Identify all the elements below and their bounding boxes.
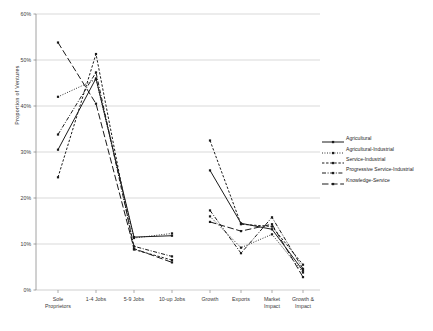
series-line [210, 216, 303, 272]
data-point-marker [95, 53, 97, 55]
data-point-marker [95, 103, 97, 105]
data-point-marker [240, 230, 242, 232]
y-tick-label: 60% [9, 11, 31, 17]
chart-legend: AgriculturalAgricultural-IndustrialServi… [322, 133, 430, 185]
legend-item-agricultural-industrial[interactable]: Agricultural-Industrial [322, 143, 430, 153]
legend-item-label: Service-Industrial [346, 156, 385, 162]
data-point-marker [57, 96, 59, 98]
legend-line-swatch-icon [322, 164, 344, 174]
y-tick-label: 10% [9, 241, 31, 247]
data-point-marker [302, 264, 304, 266]
data-point-marker [57, 41, 59, 43]
data-point-marker [302, 268, 304, 270]
data-point-marker [240, 223, 242, 225]
series-line [58, 72, 172, 256]
data-point-marker [240, 252, 242, 254]
series-line [58, 43, 172, 263]
data-point-marker [57, 133, 59, 135]
data-point-marker [95, 78, 97, 80]
data-point-marker [95, 71, 97, 73]
legend-item-label: Agricultural [346, 135, 371, 141]
data-series-group [57, 41, 304, 278]
data-point-marker [240, 247, 242, 249]
data-point-marker [271, 228, 273, 230]
legend-item-progressive-service-industrial[interactable]: Progressive Service-Industrial [322, 164, 430, 174]
data-point-marker [133, 248, 135, 250]
data-point-marker [171, 259, 173, 261]
legend-line-swatch-icon [322, 133, 344, 143]
legend-line-swatch-icon [322, 144, 344, 154]
data-point-marker [302, 276, 304, 278]
data-point-marker [209, 215, 211, 217]
legend-item-agricultural[interactable]: Agricultural [322, 133, 430, 143]
legend-item-label: Agricultural-Industrial [346, 146, 394, 152]
legend-item-label: Knowledge-Service [346, 177, 390, 183]
legend-item-label: Progressive Service-Industrial [346, 166, 414, 172]
data-point-marker [302, 271, 304, 273]
data-point-marker [171, 255, 173, 257]
series-service-industrial [57, 53, 304, 266]
series-line [210, 222, 303, 277]
chart-screenshot: Proportion of Ventures 0%10%20%30%40%50%… [0, 0, 433, 331]
y-tick-label: 30% [9, 149, 31, 155]
y-tick-label: 50% [9, 57, 31, 63]
data-point-marker [171, 232, 173, 234]
y-tick-label: 40% [9, 103, 31, 109]
data-point-marker [209, 209, 211, 211]
series-agricultural [57, 77, 304, 271]
data-point-marker [271, 233, 273, 235]
data-point-marker [271, 223, 273, 225]
legend-item-knowledge-service[interactable]: Knowledge-Service [322, 175, 430, 185]
data-point-marker [133, 237, 135, 239]
x-axis-tickmarks [58, 290, 303, 293]
y-tick-label: 20% [9, 195, 31, 201]
legend-line-swatch-icon [322, 175, 344, 185]
data-point-marker [209, 169, 211, 171]
y-tick-label: 0% [9, 287, 31, 293]
axis-lines [34, 14, 37, 290]
series-knowledge-service [57, 41, 304, 278]
series-line [210, 210, 303, 268]
data-point-marker [271, 216, 273, 218]
x-tick-label: Growth &Impact [277, 296, 329, 310]
data-point-marker [209, 221, 211, 223]
data-point-marker [209, 139, 211, 141]
chart-plot-area: Proportion of Ventures 0%10%20%30%40%50%… [0, 0, 433, 331]
legend-line-swatch-icon [322, 154, 344, 164]
data-point-marker [171, 261, 173, 263]
data-point-marker [171, 235, 173, 237]
gridlines [36, 14, 320, 290]
data-point-marker [57, 149, 59, 151]
legend-item-service-industrial[interactable]: Service-Industrial [322, 154, 430, 164]
data-point-marker [57, 176, 59, 178]
